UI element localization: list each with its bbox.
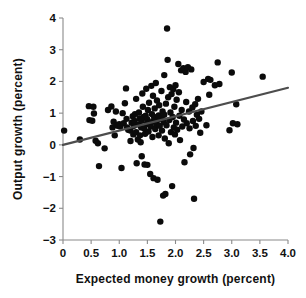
scatter-chart-figure: −3−2−101234 00.51.01.52.02.53.03.54.0 Ex… [0, 0, 306, 298]
data-point [95, 140, 101, 146]
data-point [187, 151, 193, 157]
data-point [192, 101, 198, 107]
data-point [193, 123, 199, 129]
data-point [118, 165, 124, 171]
data-point [101, 145, 107, 151]
data-point [133, 160, 139, 166]
data-point [113, 108, 119, 114]
data-point [161, 112, 167, 118]
data-point [89, 118, 95, 124]
x-axis-tick-group: 00.51.01.52.02.53.03.54.0 [60, 240, 296, 259]
data-point [137, 139, 143, 145]
data-point [158, 88, 164, 94]
data-point [196, 116, 202, 122]
data-point [186, 125, 192, 131]
data-point [166, 140, 172, 146]
data-point [122, 100, 128, 106]
data-point [61, 127, 67, 133]
x-tick-label: 1.0 [111, 247, 127, 259]
data-point [157, 218, 163, 224]
x-tick-label: 2.0 [168, 247, 184, 259]
data-point [169, 183, 175, 189]
y-tick-label: −3 [43, 234, 56, 246]
data-point [96, 163, 102, 169]
data-point [144, 162, 150, 168]
data-point [91, 110, 97, 116]
x-tick-label: 0.5 [83, 247, 100, 259]
data-point [259, 73, 265, 79]
data-point [214, 59, 220, 65]
data-point [203, 122, 209, 128]
data-point [164, 25, 170, 31]
data-point [173, 119, 179, 125]
data-point [108, 103, 114, 109]
data-point [161, 72, 167, 78]
data-point [188, 66, 194, 72]
data-point [171, 104, 177, 110]
data-point [119, 110, 125, 116]
data-point [90, 104, 96, 110]
data-point [173, 97, 179, 103]
data-point [229, 69, 235, 75]
data-point [123, 116, 129, 122]
data-point [154, 177, 160, 183]
data-point [156, 102, 162, 108]
data-point [195, 96, 201, 102]
data-point [177, 137, 183, 143]
data-point [162, 191, 168, 197]
x-tick-label: 2.5 [196, 247, 213, 259]
y-tick-label: 0 [50, 139, 56, 151]
y-tick-label: 3 [50, 44, 56, 56]
x-tick-label: 3.5 [252, 247, 269, 259]
data-point [216, 81, 222, 87]
y-tick-label: 2 [50, 75, 56, 87]
data-point [153, 80, 159, 86]
data-point [191, 196, 197, 202]
y-axis-tick-group: −3−2−101234 [43, 12, 63, 246]
y-tick-label: −1 [43, 171, 57, 183]
x-tick-label: 0 [60, 247, 66, 259]
y-tick-label: 4 [50, 12, 57, 24]
data-point [226, 127, 232, 133]
data-point [146, 99, 152, 105]
data-point [175, 61, 181, 67]
data-point [172, 82, 178, 88]
y-axis-title: Output growth (percent) [11, 58, 25, 200]
data-point [139, 153, 145, 159]
data-point [163, 100, 169, 106]
data-point [164, 57, 170, 63]
data-point [133, 96, 139, 102]
x-axis-title: Expected money growth (percent) [76, 272, 276, 286]
data-point [197, 130, 203, 136]
data-point [123, 85, 129, 91]
data-point-group [61, 25, 266, 225]
data-point [207, 77, 213, 83]
x-tick-label: 4.0 [280, 247, 296, 259]
data-point [190, 145, 196, 151]
y-tick-label: −2 [43, 202, 56, 214]
data-point [183, 99, 189, 105]
data-point [206, 92, 212, 98]
chart-canvas: −3−2−101234 00.51.01.52.02.53.03.54.0 Ex… [0, 0, 306, 298]
data-point [234, 121, 240, 127]
data-point [181, 159, 187, 165]
data-point [159, 127, 165, 133]
x-tick-label: 3.0 [224, 247, 240, 259]
y-tick-label: 1 [50, 107, 57, 119]
data-point [176, 89, 182, 95]
data-point [149, 134, 155, 140]
data-point [127, 138, 133, 144]
data-point [178, 107, 184, 113]
x-tick-label: 1.5 [139, 247, 156, 259]
